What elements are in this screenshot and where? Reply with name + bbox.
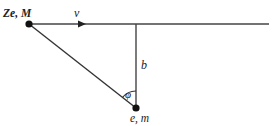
velocity-arrow-icon (78, 21, 86, 28)
heavy-particle-label: Ze, M (2, 7, 32, 19)
light-particle-dot (132, 104, 139, 111)
heavy-particle-dot (25, 20, 32, 27)
velocity-label: v (74, 6, 80, 20)
impact-parameter-label: b (141, 58, 147, 72)
angle-label: φ (125, 88, 131, 100)
collision-diagram: Ze, M v b φ e, m (0, 0, 273, 126)
separation-line (29, 24, 136, 108)
light-particle-label: e, m (130, 112, 149, 125)
